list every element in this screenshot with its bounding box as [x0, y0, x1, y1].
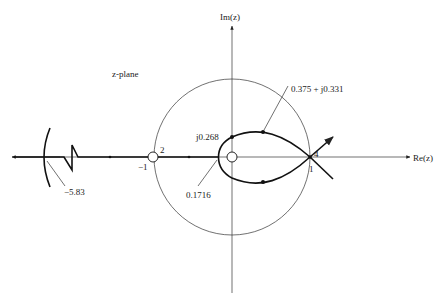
- breakaway-label: 0.1716: [186, 190, 211, 200]
- multiplicity-neg-one: 2: [160, 145, 165, 155]
- tick-neg-one: −1: [138, 162, 148, 172]
- complex-point-lower: [261, 180, 265, 184]
- y-axis-label: Im(z): [220, 12, 240, 22]
- locus-marker: [188, 156, 191, 159]
- x-axis-label: Re(z): [413, 153, 433, 163]
- complex-point-label: 0.375 + j0.331: [291, 84, 344, 94]
- leader-far: [47, 161, 65, 186]
- root-locus-figure: Im(z) Re(z) z-plane 0.375 + j0.331 j0.26…: [0, 0, 447, 306]
- tick-one: 1: [309, 164, 314, 174]
- zero-at-neg-one: [148, 152, 158, 162]
- imag-crossing-label: j0.268: [195, 132, 219, 142]
- zero-at-origin: [227, 152, 237, 162]
- far-point-label: −5.83: [64, 187, 85, 197]
- locus-marker: [109, 156, 112, 159]
- imag-crossing-point: [230, 135, 234, 139]
- complex-point-upper: [261, 130, 265, 134]
- plane-label: z-plane: [112, 69, 138, 79]
- multiplicity-one: 4: [314, 149, 319, 159]
- pole-at-one: [308, 155, 312, 159]
- leader-breakaway: [198, 160, 217, 186]
